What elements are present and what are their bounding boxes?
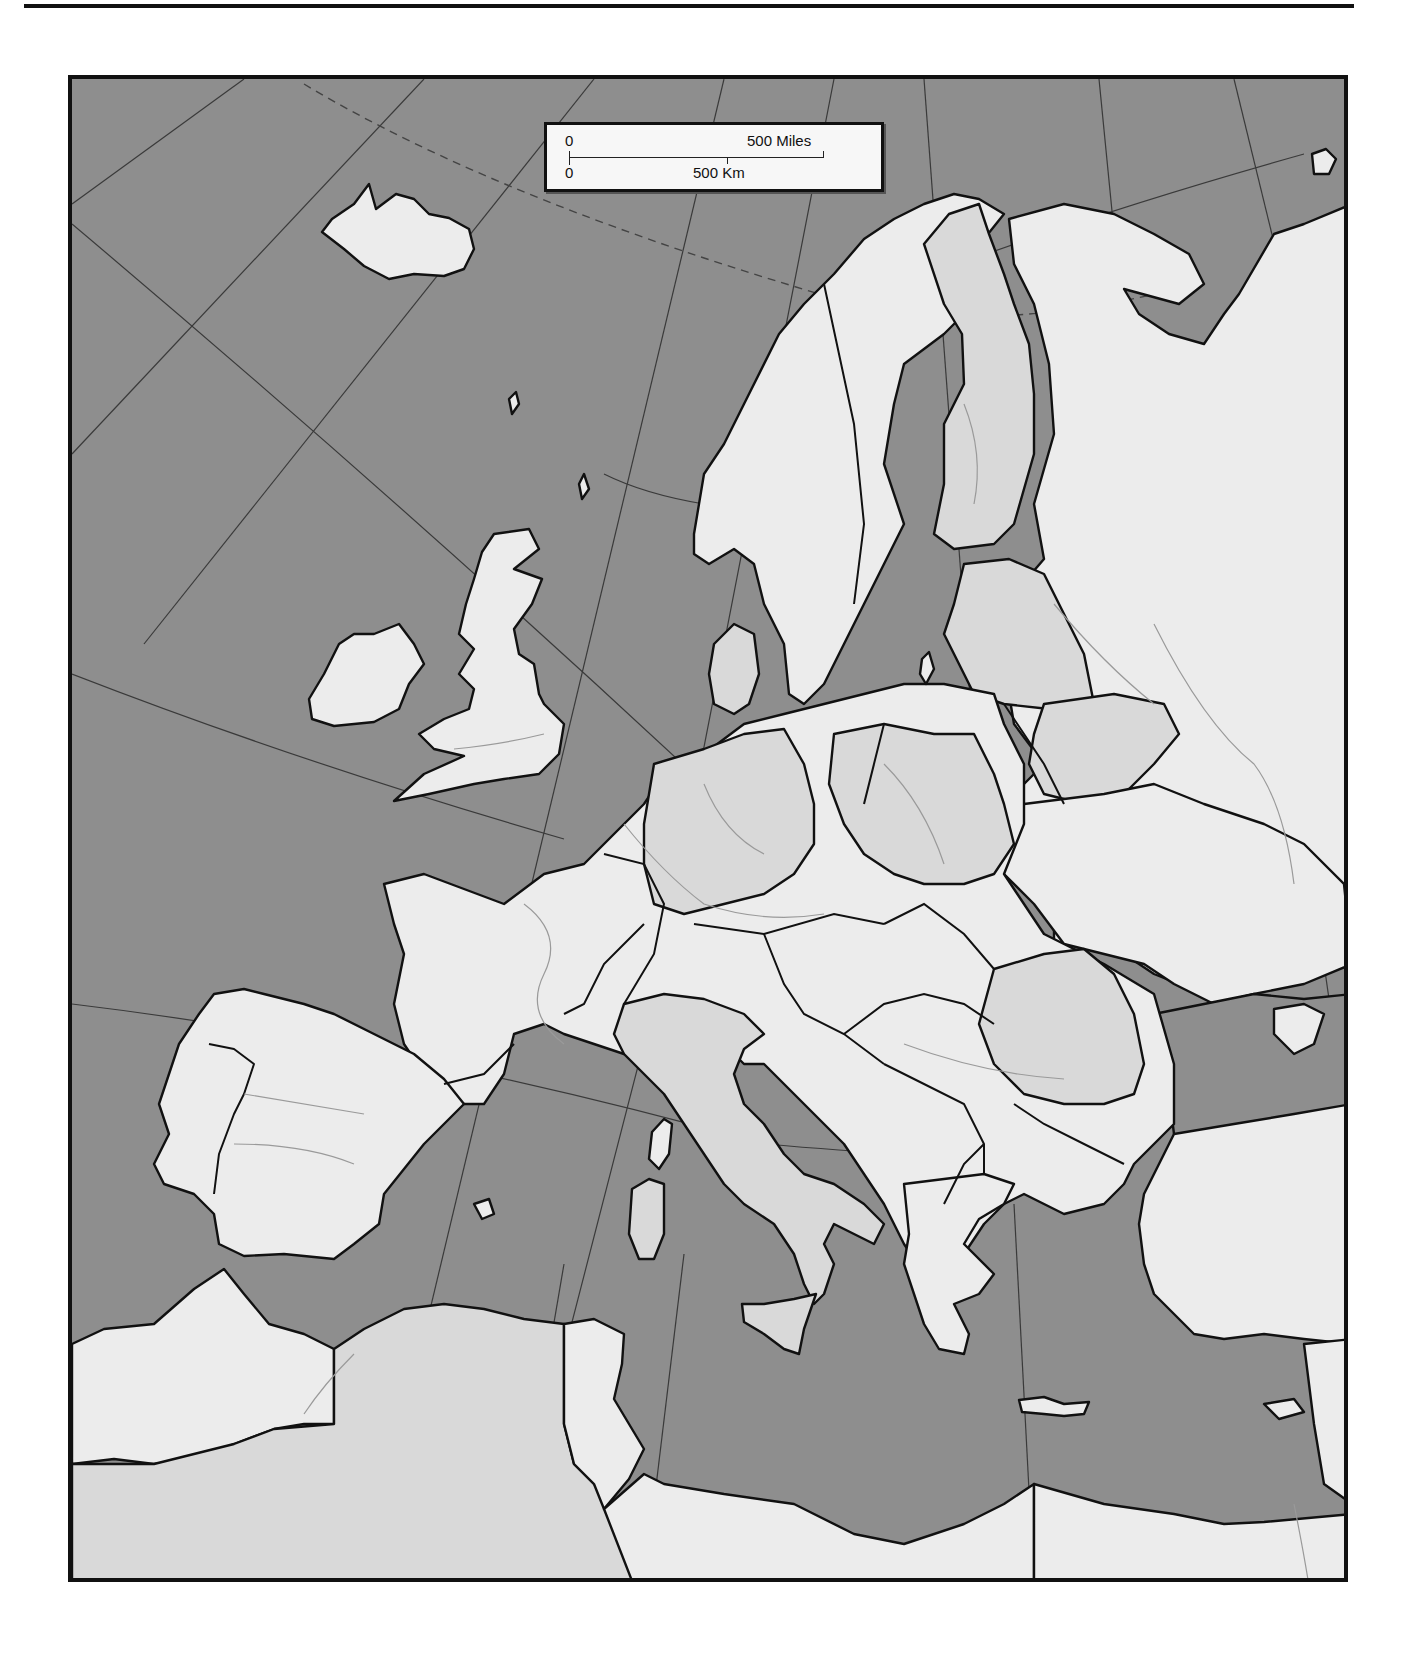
scale-km-label: 500 Km (693, 165, 745, 180)
scale-line (569, 157, 823, 158)
sardinia (629, 1179, 664, 1259)
scale-tick-km (727, 157, 728, 164)
scale-bar: 0 500 Miles 0 500 Km (544, 122, 884, 192)
map-frame (68, 75, 1348, 1582)
top-rule (24, 4, 1354, 8)
scale-miles-zero: 0 (565, 133, 573, 148)
scale-tick-zero (569, 151, 570, 165)
turkey (1139, 1104, 1348, 1344)
scale-tick-miles (823, 151, 824, 158)
europe-map (72, 79, 1348, 1582)
scale-km-zero: 0 (565, 165, 573, 180)
scale-miles-label: 500 Miles (747, 133, 811, 148)
